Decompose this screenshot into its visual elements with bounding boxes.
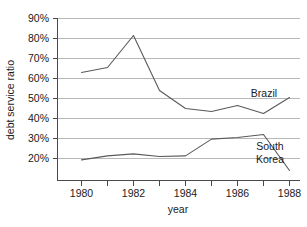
y-tick-label-90: 90% <box>28 12 49 24</box>
y-tick-label-80: 80% <box>28 32 49 44</box>
x-tick-marks <box>82 181 290 186</box>
y-tick-label-60: 60% <box>28 72 49 84</box>
chart-container: 90% 80% 70% 60% 50% 40% 30% 20% 1980 198… <box>0 0 307 227</box>
series-label-south-korea-line1: South <box>256 140 284 152</box>
y-tick-label-30: 30% <box>28 132 49 144</box>
x-tick-label-1982: 1982 <box>122 187 146 199</box>
y-axis-title: debt service ratio <box>4 60 16 140</box>
y-tick-label-70: 70% <box>28 52 49 64</box>
x-tick-label-1988: 1988 <box>278 187 302 199</box>
x-tick-labels: 1980 1982 1984 1986 1988 <box>70 187 302 199</box>
series-line-brazil <box>82 36 290 114</box>
y-tick-label-20: 20% <box>28 152 49 164</box>
x-tick-label-1986: 1986 <box>226 187 250 199</box>
y-tick-label-40: 40% <box>28 112 49 124</box>
y-tick-marks <box>53 19 57 159</box>
y-tick-label-50: 50% <box>28 92 49 104</box>
series-label-south-korea-line2: Korea <box>256 153 284 165</box>
y-tick-labels: 90% 80% 70% 60% 50% 40% 30% 20% <box>28 12 49 164</box>
series-label-brazil: Brazil <box>251 87 277 99</box>
x-axis-title: year <box>168 203 189 215</box>
x-tick-label-1980: 1980 <box>70 187 94 199</box>
line-chart: 90% 80% 70% 60% 50% 40% 30% 20% 1980 198… <box>0 0 307 227</box>
x-tick-label-1984: 1984 <box>174 187 198 199</box>
